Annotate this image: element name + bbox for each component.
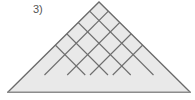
figure-container: 3)	[0, 0, 195, 100]
triangle-grid-figure	[0, 0, 195, 100]
triangle-body-fill	[8, 2, 190, 92]
